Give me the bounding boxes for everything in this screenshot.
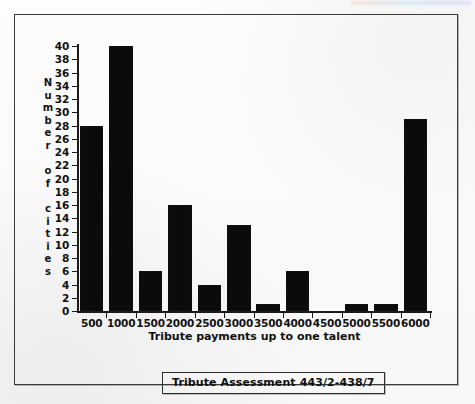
y-tick-label: 4 — [62, 279, 69, 290]
x-tick-label: 3500 — [254, 318, 282, 329]
y-tick-label: 14 — [55, 213, 69, 224]
figure-frame: Number of cities 02468101214161820222426… — [14, 14, 458, 385]
y-axis-title-gap — [41, 153, 55, 166]
bar-1000 — [109, 46, 133, 311]
y-axis-title-letter: c — [41, 203, 55, 216]
y-tick-label: 30 — [55, 107, 69, 118]
y-tick-label: 10 — [55, 240, 69, 251]
y-tick-label: 28 — [55, 120, 69, 131]
plot-area: 0246810121416182022242628303234363840 50… — [77, 46, 430, 311]
y-tick-label: 2 — [62, 293, 69, 304]
x-tick-label: 5000 — [342, 318, 370, 329]
x-tick-label: 1000 — [107, 318, 135, 329]
y-axis-title-letter: f — [41, 178, 55, 191]
y-tick-label: 6 — [62, 266, 69, 277]
y-axis-title-letter: i — [41, 216, 55, 229]
bar-1500 — [139, 271, 163, 311]
y-tick — [72, 59, 77, 60]
y-tick-label: 20 — [55, 173, 69, 184]
y-tick — [72, 112, 77, 113]
y-tick — [72, 311, 77, 312]
y-tick-label: 38 — [55, 54, 69, 65]
y-axis-title-gap — [41, 190, 55, 203]
y-tick-label: 18 — [55, 187, 69, 198]
x-axis-line — [77, 311, 432, 313]
y-axis-title-letter: b — [41, 115, 55, 128]
x-tick-label: 1500 — [136, 318, 164, 329]
y-tick-label: 32 — [55, 94, 69, 105]
y-tick — [72, 232, 77, 233]
y-tick — [72, 179, 77, 180]
bar-3500 — [256, 304, 280, 311]
y-axis-title: Number of cities — [41, 77, 55, 279]
x-tick-label: 3000 — [225, 318, 253, 329]
y-axis-title-letter: m — [41, 102, 55, 115]
x-tick-label: 4000 — [283, 318, 311, 329]
y-tick — [72, 245, 77, 246]
y-tick-label: 16 — [55, 200, 69, 211]
y-tick — [72, 192, 77, 193]
y-tick — [72, 152, 77, 153]
x-tick-label: 6000 — [401, 318, 429, 329]
y-tick-label: 24 — [55, 147, 69, 158]
bar-500 — [80, 126, 104, 312]
y-axis-title-letter: o — [41, 165, 55, 178]
bar-4000 — [286, 271, 310, 311]
figure-caption: Tribute Assessment 443/2-438/7 — [162, 372, 385, 394]
y-axis-title-letter: r — [41, 140, 55, 153]
y-tick-label: 0 — [62, 306, 69, 317]
bar-2000 — [168, 205, 192, 311]
y-tick — [72, 258, 77, 259]
y-axis-title-letter: s — [41, 266, 55, 279]
y-axis-title-letter: e — [41, 253, 55, 266]
y-axis-title-letter: i — [41, 241, 55, 254]
y-tick-label: 36 — [55, 67, 69, 78]
x-axis-title: Tribute payments up to one talent — [77, 330, 432, 343]
y-tick — [72, 271, 77, 272]
y-tick — [72, 285, 77, 286]
y-tick — [72, 86, 77, 87]
y-axis-title-letter: t — [41, 228, 55, 241]
y-tick — [72, 218, 77, 219]
x-tick-label: 2500 — [195, 318, 223, 329]
y-tick-label: 12 — [55, 226, 69, 237]
y-axis-title-letter: u — [41, 90, 55, 103]
x-tick-label: 5500 — [372, 318, 400, 329]
x-tick-label: 2000 — [166, 318, 194, 329]
bar-6000 — [404, 119, 428, 311]
y-tick — [72, 205, 77, 206]
y-tick-label: 40 — [55, 41, 69, 52]
bar-5500 — [374, 304, 398, 311]
y-tick — [72, 46, 77, 47]
x-tick-label: 4500 — [313, 318, 341, 329]
y-tick — [72, 298, 77, 299]
bar-3000 — [227, 225, 251, 311]
y-tick — [72, 139, 77, 140]
y-tick-label: 34 — [55, 81, 69, 92]
y-tick — [72, 165, 77, 166]
y-tick-label: 26 — [55, 134, 69, 145]
scan-color-fringe — [351, 1, 471, 5]
y-tick-label: 22 — [55, 160, 69, 171]
y-tick — [72, 99, 77, 100]
x-tick-label: 500 — [81, 318, 102, 329]
y-axis-title-letter: e — [41, 127, 55, 140]
y-tick — [72, 73, 77, 74]
y-axis-title-letter: N — [41, 77, 55, 90]
y-tick — [72, 126, 77, 127]
bar-2500 — [198, 285, 222, 312]
x-tick — [430, 313, 431, 318]
bar-5000 — [345, 304, 369, 311]
y-tick-label: 8 — [62, 253, 69, 264]
